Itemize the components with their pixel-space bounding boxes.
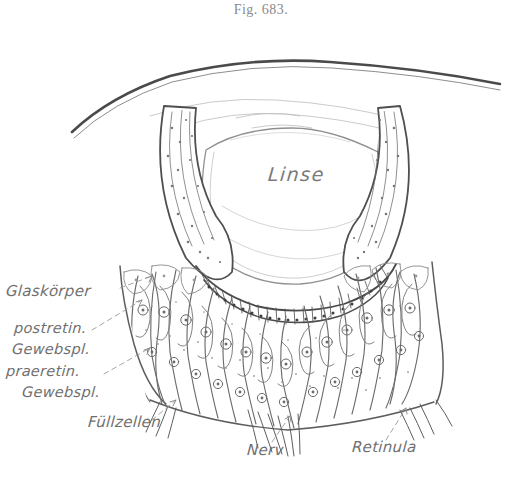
label-nerv: Nerv: [246, 441, 284, 459]
label-postretinal-2: Gewebspl.: [11, 341, 90, 357]
label-retinula: Retinula: [351, 438, 417, 456]
label-preretinal-1: praeretin.: [5, 363, 80, 379]
label-linse: Linse: [267, 163, 326, 185]
figure-plate: Fig. 683.: [0, 0, 522, 478]
leader-postretinal: [92, 300, 142, 330]
label-preretinal-2: Gewebspl.: [21, 384, 100, 400]
label-glaskoerper: Glaskörper: [5, 282, 91, 300]
label-postretinal-1: postretin.: [13, 320, 87, 336]
label-fuellzellen: Füllzellen: [87, 413, 161, 431]
retinula-cells-left: [132, 270, 294, 428]
anatomical-drawing: [0, 0, 522, 478]
cornea-outline: [72, 61, 500, 138]
